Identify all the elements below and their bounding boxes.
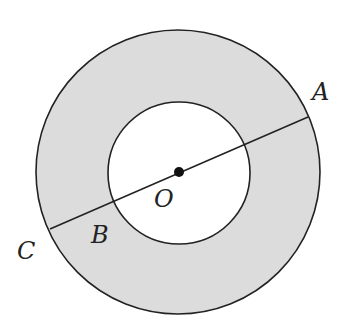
- label-o: O: [154, 185, 174, 213]
- label-b: B: [90, 221, 109, 249]
- annulus-diagram: A B C O: [0, 0, 350, 331]
- label-c: C: [17, 237, 35, 265]
- center-point: [174, 167, 184, 177]
- label-a: A: [310, 78, 329, 106]
